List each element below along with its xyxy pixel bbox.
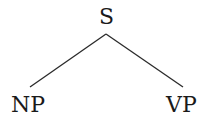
node-s: S [99,6,114,28]
edge-s-vp [106,34,183,87]
node-np: NP [11,94,45,116]
edge-s-np [30,34,106,87]
syntax-tree: S NP VP [0,0,213,121]
node-vp: VP [166,94,197,116]
